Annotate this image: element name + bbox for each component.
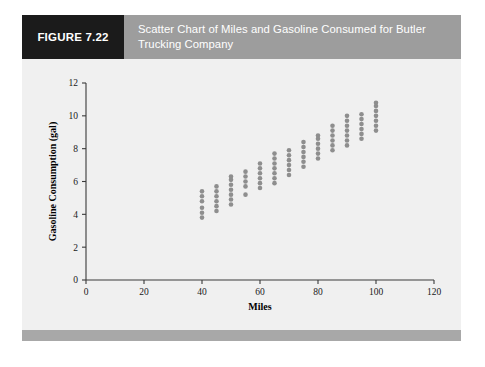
data-point	[214, 209, 219, 214]
data-point	[316, 133, 321, 138]
y-axis-tick-label: 12	[69, 78, 79, 88]
figure-container: FIGURE 7.22 Scatter Chart of Miles and G…	[0, 0, 485, 367]
x-axis-tick-label: 20	[139, 287, 149, 297]
x-axis-tick-label: 40	[197, 287, 207, 297]
data-point	[316, 156, 321, 161]
data-point	[301, 155, 306, 160]
y-axis-tick-label: 2	[73, 243, 78, 253]
y-axis-tick-label: 6	[73, 177, 78, 187]
data-point	[287, 158, 292, 163]
data-point	[229, 187, 234, 192]
data-point	[316, 141, 321, 146]
data-point	[316, 146, 321, 151]
data-point	[359, 117, 364, 122]
data-point	[345, 138, 350, 143]
data-point	[214, 194, 219, 199]
data-point	[200, 215, 205, 220]
x-axis-tick-label: 0	[84, 287, 89, 297]
x-axis-tick-label: 60	[255, 287, 265, 297]
data-point	[345, 118, 350, 123]
data-point	[272, 166, 277, 171]
data-point	[345, 123, 350, 128]
y-axis-tick-label: 10	[69, 111, 79, 121]
data-point	[243, 179, 248, 184]
data-point	[287, 153, 292, 158]
data-point	[359, 112, 364, 117]
data-point	[301, 150, 306, 155]
y-axis-title: Gasoline Consumption (gal)	[47, 122, 59, 241]
y-axis-tick-label: 0	[73, 275, 78, 285]
data-point	[258, 171, 263, 176]
data-point	[214, 184, 219, 189]
data-point	[272, 181, 277, 186]
figure-caption-text: Scatter Chart of Miles and Gasoline Cons…	[124, 15, 461, 59]
data-point	[359, 127, 364, 132]
data-point	[243, 174, 248, 179]
figure-footer-bar	[22, 330, 461, 341]
data-point	[330, 123, 335, 128]
data-point	[301, 145, 306, 150]
data-point	[258, 181, 263, 186]
data-point	[374, 123, 379, 128]
data-point	[272, 171, 277, 176]
data-point	[243, 184, 248, 189]
data-point	[301, 160, 306, 165]
data-point	[200, 194, 205, 199]
y-axis-tick-label: 4	[73, 210, 78, 220]
data-point	[301, 140, 306, 145]
figure-caption-bar: FIGURE 7.22 Scatter Chart of Miles and G…	[22, 15, 461, 59]
data-point	[243, 169, 248, 174]
data-point	[359, 122, 364, 127]
data-point	[374, 100, 379, 105]
data-point	[258, 166, 263, 171]
data-point	[287, 163, 292, 168]
data-point	[272, 176, 277, 181]
data-point	[258, 161, 263, 166]
data-point	[229, 202, 234, 207]
data-point	[287, 168, 292, 173]
data-point	[330, 128, 335, 133]
data-point	[200, 189, 205, 194]
scatter-plot: 020406080100120024681012MilesGasoline Co…	[22, 59, 461, 330]
data-point	[229, 174, 234, 179]
data-point	[258, 186, 263, 191]
y-axis-tick-label: 8	[73, 144, 78, 154]
data-point	[345, 133, 350, 138]
data-point	[359, 132, 364, 137]
data-point	[272, 161, 277, 166]
figure-number-tag: FIGURE 7.22	[22, 15, 124, 59]
data-point	[229, 182, 234, 187]
data-point	[316, 151, 321, 156]
data-point	[374, 114, 379, 119]
data-point	[214, 199, 219, 204]
data-point	[200, 199, 205, 204]
data-point	[374, 109, 379, 114]
data-point	[359, 137, 364, 142]
data-point	[330, 143, 335, 148]
data-point	[229, 192, 234, 197]
data-point	[374, 118, 379, 123]
data-point	[330, 138, 335, 143]
data-point	[214, 204, 219, 209]
x-axis-tick-label: 80	[313, 287, 323, 297]
data-point	[301, 164, 306, 169]
data-point	[200, 205, 205, 210]
data-point	[229, 197, 234, 202]
data-point	[258, 176, 263, 181]
data-point	[272, 151, 277, 156]
x-axis-tick-label: 100	[369, 287, 384, 297]
data-point	[287, 148, 292, 153]
data-point	[214, 189, 219, 194]
data-point	[243, 192, 248, 197]
scatter-plot-svg: 020406080100120024681012MilesGasoline Co…	[22, 59, 461, 330]
data-point	[287, 173, 292, 178]
x-axis-tick-label: 120	[427, 287, 442, 297]
data-point	[345, 143, 350, 148]
data-point	[345, 128, 350, 133]
data-point	[330, 133, 335, 138]
x-axis-title: Miles	[248, 301, 271, 312]
figure-body-panel: 020406080100120024681012MilesGasoline Co…	[22, 59, 461, 330]
data-point	[345, 114, 350, 119]
data-point-group	[200, 100, 379, 220]
data-point	[374, 128, 379, 133]
